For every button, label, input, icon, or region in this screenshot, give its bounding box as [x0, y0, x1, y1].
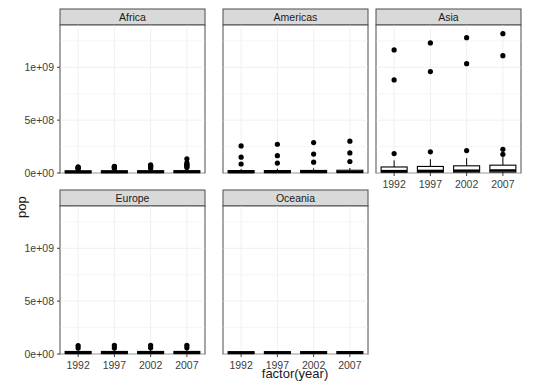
- facet-strip-label-europe: Europe: [60, 192, 205, 204]
- outlier-point-1: [239, 155, 244, 160]
- outlier-point-1: [275, 153, 280, 158]
- outlier-point-2: [347, 139, 352, 144]
- outlier-point-2: [428, 40, 433, 45]
- x-tick-label-europe-1992: 1992: [62, 359, 94, 371]
- panel-africa: [60, 25, 205, 173]
- boxplot-oceania-1992: [228, 352, 254, 354]
- boxplot-oceania-2007: [337, 352, 363, 354]
- facet-strip-label-oceania: Oceania: [223, 192, 368, 204]
- y-axis-title: pop: [14, 196, 29, 218]
- panel-oceania: [223, 206, 368, 354]
- outlier-point-2: [239, 143, 244, 148]
- outlier-point-1: [500, 147, 505, 152]
- y-tick-label-africa-1: 5e+08: [4, 114, 54, 126]
- y-tick-label-africa-0: 0e+00: [4, 167, 54, 179]
- x-tick-label-asia-2007: 2007: [487, 178, 519, 190]
- x-tick-label-europe-2002: 2002: [135, 359, 167, 371]
- outlier-point-2: [275, 142, 280, 147]
- outlier-point-3: [112, 164, 117, 169]
- outlier-point-1: [392, 77, 397, 82]
- panel-americas: [223, 25, 368, 173]
- outlier-point-0: [392, 151, 397, 156]
- y-tick-label-africa-2: 1e+09: [4, 61, 54, 73]
- x-tick-label-asia-1997: 1997: [414, 178, 446, 190]
- outlier-point-1: [347, 150, 352, 155]
- outlier-point-2: [392, 47, 397, 52]
- facet-strip-label-americas: Americas: [223, 11, 368, 23]
- boxplot-oceania-1997: [264, 352, 290, 354]
- x-tick-label-asia-1992: 1992: [378, 178, 410, 190]
- outlier-point-1: [112, 343, 117, 348]
- outlier-point-3: [76, 164, 81, 169]
- outlier-point-0: [275, 160, 280, 165]
- outlier-point-1: [148, 343, 153, 348]
- x-tick-label-asia-2002: 2002: [451, 178, 483, 190]
- panel-asia: [376, 25, 521, 173]
- outlier-point-4: [148, 162, 153, 167]
- facet-strip-label-africa: Africa: [60, 11, 205, 23]
- outlier-point-0: [347, 159, 352, 164]
- outlier-point-0: [500, 152, 505, 157]
- outlier-point-1: [311, 151, 316, 156]
- outlier-point-0: [428, 149, 433, 154]
- outlier-point-1: [184, 343, 189, 348]
- x-tick-label-europe-1997: 1997: [98, 359, 130, 371]
- outlier-point-0: [464, 148, 469, 153]
- outlier-point-2: [500, 53, 505, 58]
- x-axis-title: factor(year): [180, 366, 410, 381]
- outlier-point-0: [239, 161, 244, 166]
- outlier-point-0: [311, 160, 316, 165]
- outlier-point-1: [76, 343, 81, 348]
- boxplot-oceania-2002: [301, 352, 327, 354]
- facet-strip-label-asia: Asia: [376, 11, 521, 23]
- y-tick-label-europe-1: 5e+08: [4, 295, 54, 307]
- outlier-point-1: [428, 69, 433, 74]
- outlier-point-1: [464, 61, 469, 66]
- y-tick-label-europe-0: 0e+00: [4, 348, 54, 360]
- outlier-point-2: [311, 140, 316, 145]
- panel-europe: [60, 206, 205, 354]
- outlier-point-3: [500, 31, 505, 36]
- outlier-point-5: [184, 156, 189, 161]
- outlier-point-2: [464, 35, 469, 40]
- y-tick-label-europe-2: 1e+09: [4, 242, 54, 254]
